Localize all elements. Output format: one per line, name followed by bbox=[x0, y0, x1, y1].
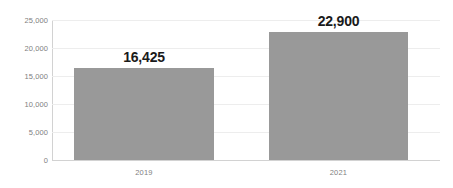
y-axis-tick-label: 15,000 bbox=[2, 72, 48, 81]
plot-area bbox=[52, 20, 440, 160]
y-axis-tick-label: 0 bbox=[2, 156, 48, 165]
x-axis-tick-label-2019: 2019 bbox=[135, 168, 153, 177]
y-axis-tick-labels: 05,00010,00015,00020,00025,000 bbox=[0, 0, 48, 188]
bar-2021[interactable] bbox=[269, 32, 408, 160]
y-axis-tick-label: 25,000 bbox=[2, 16, 48, 25]
x-axis-tick-label-2021: 2021 bbox=[330, 168, 348, 177]
bar-value-label-2021: 22,900 bbox=[318, 13, 360, 29]
gridline bbox=[52, 20, 440, 21]
y-axis-tick-label: 5,000 bbox=[2, 128, 48, 137]
bar-value-label-2019: 16,425 bbox=[123, 49, 165, 65]
y-axis-tick-label: 20,000 bbox=[2, 44, 48, 53]
gridline bbox=[52, 160, 440, 161]
bar-chart: 05,00010,00015,00020,00025,000 16,425201… bbox=[0, 0, 453, 188]
y-axis-tick-label: 10,000 bbox=[2, 100, 48, 109]
bar-2019[interactable] bbox=[74, 68, 214, 160]
